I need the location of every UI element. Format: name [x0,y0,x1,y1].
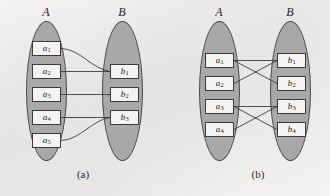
node-b-a3: a3 [205,99,234,114]
node-a-b1: b1 [110,64,139,79]
node-sub: 3 [47,93,50,100]
node-b-b4: b4 [277,122,306,137]
node-sub: 4 [47,116,50,123]
node-sub: 3 [125,116,128,123]
node-b-a1: a1 [205,53,234,68]
set-label-a-left: A [36,5,56,20]
node-sub: 5 [47,139,50,146]
node-a-b2: b2 [110,87,139,102]
set-mapping-figure: A B a1 a2 a3 a4 a5 b1 b2 b3 (a) [0,0,330,196]
node-a-a1: a1 [32,41,61,56]
node-sub: 1 [292,59,295,66]
node-sub: 2 [220,82,223,89]
node-sub: 1 [220,59,223,66]
node-a-b3: b3 [110,110,139,125]
node-sub: 4 [220,128,223,135]
node-sub: 2 [292,82,295,89]
ellipse-set-b-left [199,21,240,161]
node-b-b1: b1 [277,53,306,68]
node-b-b3: b3 [277,99,306,114]
node-b-a4: a4 [205,122,234,137]
node-sub: 2 [47,70,50,77]
set-label-a-right: B [112,5,132,20]
edge-a-a5-b3 [61,118,110,141]
node-sub: 1 [47,47,50,54]
node-sub: 3 [220,105,223,112]
node-a-a5: a5 [32,133,61,148]
node-sub: 3 [292,105,295,112]
node-sub: 4 [292,128,295,135]
set-label-b-right: B [280,5,300,20]
ellipse-set-b-right [270,21,311,161]
node-a-a3: a3 [32,87,61,102]
node-sub: 1 [125,70,128,77]
node-b-a2: a2 [205,76,234,91]
set-label-b-left: A [209,5,229,20]
panel-a-caption: (a) [63,168,103,180]
node-sub: 2 [125,93,128,100]
node-a-a4: a4 [32,110,61,125]
panel-b-caption: (b) [238,168,278,180]
node-b-b2: b2 [277,76,306,91]
node-a-a2: a2 [32,64,61,79]
